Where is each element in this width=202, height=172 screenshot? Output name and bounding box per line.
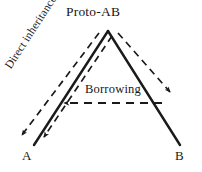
edge-label-borrowing: Borrowing [85,83,141,96]
language-tree-diagram: Proto-AB A B Direct inheritance Borrowin… [0,0,202,172]
node-label-b: B [175,149,184,162]
node-label-a: A [22,149,32,162]
node-label-proto-ab: Proto-AB [66,5,120,19]
